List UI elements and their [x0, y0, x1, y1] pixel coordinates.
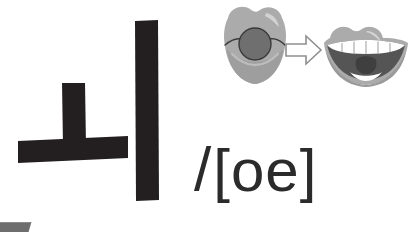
open-mouth-icon — [324, 27, 408, 87]
mouth-articulation-diagram — [190, 2, 416, 110]
hangul-letter-block — [0, 0, 190, 215]
ipa-transcription: [oe] — [213, 141, 317, 201]
hangul-jamo-o — [18, 83, 128, 163]
slide-canvas: / [oe] — [0, 0, 416, 232]
arrow-right-icon — [286, 36, 321, 64]
transcription-line: / [oe] — [194, 131, 416, 211]
slash-separator: / — [194, 138, 211, 200]
hangul-jamo-i — [135, 20, 159, 201]
cut-off-gray-bar — [0, 222, 31, 232]
rounded-lips-mouth-icon — [224, 7, 286, 84]
